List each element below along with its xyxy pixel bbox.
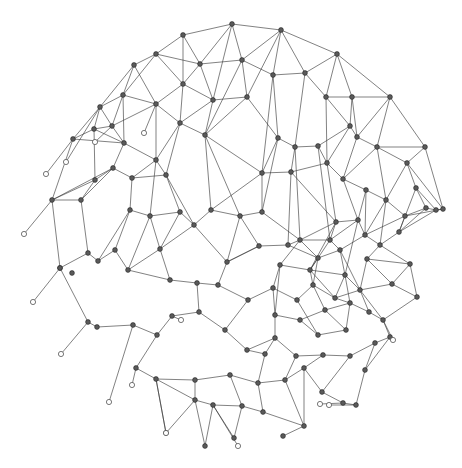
leaf-edge [109,325,133,402]
graph-edge [300,240,318,258]
graph-node-icon [279,28,284,33]
graph-node-icon [323,308,328,313]
graph-edge [360,284,392,290]
leaf-edge [61,322,88,354]
graph-node-icon [405,161,410,166]
graph-node-icon [79,198,84,203]
graph-edge [242,30,281,60]
graph-edge [132,160,156,178]
graph-edge [218,285,248,300]
leaf-edge [24,200,52,234]
graph-edge [242,60,247,97]
graph-edge [258,380,285,383]
graph-edge [156,379,195,380]
graph-edge [183,35,200,64]
graph-node-icon [110,124,115,129]
graph-node-icon [283,378,288,383]
graph-edge [183,64,200,84]
graph-edge [366,190,386,200]
graph-node-icon [181,33,186,38]
graph-edge [305,73,326,97]
graph-edge [247,30,281,97]
graph-edge [288,245,318,258]
graph-edge [123,65,134,95]
graph-node-icon [334,220,339,225]
graph-node-icon [50,198,55,203]
graph-node-icon [381,318,386,323]
graph-edge [197,283,218,285]
graph-node-icon [364,188,369,193]
graph-edge [365,190,366,235]
graph-edge [197,283,199,312]
graph-edge [335,275,345,298]
graph-node-icon [434,208,439,213]
graph-edge [358,190,366,220]
graph-edge [275,338,296,356]
graph-edge [150,216,160,249]
graph-edge [304,368,322,392]
graph-edge [386,163,407,200]
graph-edge [247,97,278,138]
graph-node-icon [121,93,126,98]
graph-node-icon [158,247,163,252]
graph-node-icon [278,263,283,268]
graph-edge [225,300,248,330]
graph-edge [325,310,346,330]
leaf-node-icon [178,317,183,322]
graph-edge [416,188,426,208]
graph-node-icon [71,137,76,142]
graph-edge [383,297,417,320]
graph-node-icon [328,238,333,243]
graph-node-icon [388,95,393,100]
graph-edge [170,280,197,283]
graph-edge [132,175,166,178]
graph-edge [263,412,304,426]
graph-edge [195,375,230,380]
graph-node-icon [126,268,131,273]
graph-node-icon [373,341,378,346]
graph-edge [326,54,337,97]
graph-edge [205,100,213,135]
graph-edge [322,356,350,392]
graph-edge [213,405,242,406]
graph-node-icon [257,244,262,249]
graph-edge [156,54,200,64]
graph-edge [123,95,124,143]
graph-edge [281,30,337,54]
leaf-node-icon [141,130,146,135]
graph-node-icon [154,102,159,107]
graph-node-icon [348,354,353,359]
leaf-edge [144,104,156,133]
graph-node-icon [195,281,200,286]
leaf-node-icon [390,337,395,342]
graph-node-icon [365,257,370,262]
graph-edge [357,137,377,147]
graph-edge [160,212,180,249]
graph-node-icon [333,296,338,301]
graph-node-icon [273,313,278,318]
leaf-node-icon [235,443,240,448]
graph-node-icon [98,105,103,110]
leaf-node-icon [21,231,26,236]
graph-edge [115,250,128,270]
graph-edge [380,200,386,245]
graph-edge [386,200,405,216]
graph-edge [227,246,259,262]
graph-edge [136,368,156,379]
graph-edge [81,200,88,253]
graph-node-icon [415,295,420,300]
leaf-node-icon [129,382,134,387]
graph-node-icon [178,121,183,126]
graph-edge [218,262,227,285]
graph-node-icon [348,301,353,306]
graph-edge [242,60,273,75]
leaf-node-icon [317,401,322,406]
graph-edge [230,375,258,383]
graph-edge [156,160,166,175]
graph-node-icon [209,208,214,213]
graph-node-icon [298,238,303,243]
graph-node-icon [338,248,343,253]
graph-edge [258,354,265,383]
graph-node-icon [246,298,251,303]
graph-edge [134,54,156,65]
